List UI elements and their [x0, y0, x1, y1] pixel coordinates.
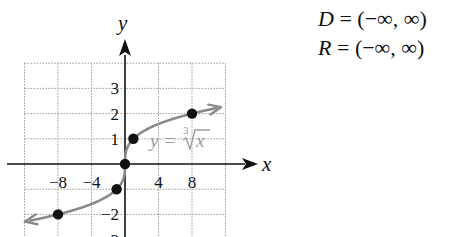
- radical-index: 3: [183, 124, 189, 136]
- data-point: [120, 159, 130, 169]
- range-value: (−∞, ∞): [355, 35, 424, 60]
- data-point: [128, 134, 138, 144]
- y-axis-arrow-icon: [119, 39, 131, 56]
- function-label: y = 3 x: [148, 124, 210, 151]
- y-tick-label: −2: [101, 205, 119, 224]
- x-axis-label: x: [261, 152, 272, 176]
- x-tick-label: 4: [154, 173, 163, 192]
- data-point: [111, 184, 121, 194]
- x-tick-label: −4: [82, 173, 101, 192]
- radicand: x: [195, 130, 205, 151]
- y-tick-label: 2: [111, 105, 120, 124]
- function-label-prefix: y =: [148, 130, 176, 151]
- domain-statement: D = (−∞, ∞): [318, 6, 427, 32]
- domain-value: (−∞, ∞): [357, 6, 426, 31]
- range-var: R: [318, 35, 331, 60]
- domain-var: D: [318, 6, 334, 31]
- y-tick-label: −3: [101, 231, 119, 237]
- data-point: [53, 209, 63, 219]
- range-eq: =: [331, 35, 354, 60]
- range-statement: R = (−∞, ∞): [318, 35, 424, 61]
- tick-labels: −8−448321−2−3: [49, 79, 196, 237]
- y-tick-label: 3: [111, 79, 120, 98]
- x-tick-label: 8: [188, 173, 197, 192]
- y-tick-label: 1: [111, 130, 120, 149]
- data-point: [187, 108, 197, 118]
- x-tick-label: −8: [49, 173, 67, 192]
- y-axis-label: y: [116, 11, 128, 35]
- domain-eq: =: [334, 6, 357, 31]
